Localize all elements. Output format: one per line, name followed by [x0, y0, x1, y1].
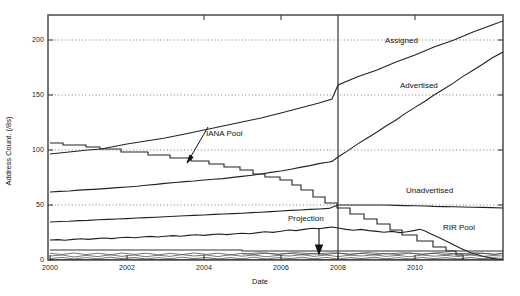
chart-figure: 200 150 100 50 0 2000 2002 2004 2006 200… — [0, 0, 520, 296]
annotation-advertised: Advertised — [400, 81, 438, 90]
y-axis-title-text: Address Count. (/8s) — [4, 96, 13, 206]
chart-plot-area — [0, 0, 520, 296]
y-tick-label-200: 200 — [24, 36, 44, 43]
annotation-rir-pool: RIR Pool — [443, 223, 475, 232]
annotation-projection: Projection — [288, 214, 324, 223]
x-tick-label-2004: 2004 — [190, 264, 218, 271]
x-tick-label-2002: 2002 — [113, 264, 141, 271]
x-tick-label-2008: 2008 — [324, 264, 352, 271]
plot-background — [48, 15, 503, 260]
y-tick-label-150: 150 — [24, 91, 44, 98]
annotation-assigned: Assigned — [385, 36, 418, 45]
annotation-iana-pool: IANA Pool — [206, 129, 242, 138]
y-tick-label-100: 100 — [24, 146, 44, 153]
y-axis-title: Address Count. (/8s) — [4, 0, 13, 96]
y-tick-label-0: 0 — [24, 256, 44, 263]
y-tick-label-50: 50 — [24, 201, 44, 208]
x-axis-title: Date — [0, 277, 520, 286]
annotation-unadvertised: Unadvertised — [406, 186, 453, 195]
x-tick-label-2010: 2010 — [401, 264, 429, 271]
x-tick-label-2000: 2000 — [36, 264, 64, 271]
x-tick-label-2006: 2006 — [267, 264, 295, 271]
